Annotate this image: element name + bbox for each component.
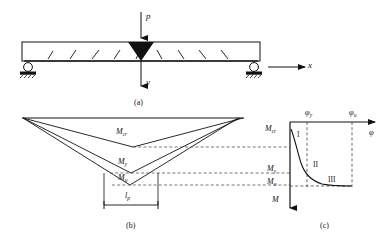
m-subscript: u	[274, 181, 277, 187]
axis-label-m: M	[272, 196, 279, 204]
m-symbol: M	[116, 127, 123, 136]
tick-label-phi-u: φu	[349, 108, 356, 117]
m-subscript: y	[125, 161, 127, 167]
moment-triangle-cracking	[23, 118, 243, 147]
tick-label-phi-y: φy	[305, 108, 312, 117]
technical-figure: p x y (a) Mcr My Mu lp (b) φy φu φ Mcr M…	[0, 0, 385, 243]
panel-b-moment-diagram	[22, 118, 290, 205]
label-m-cr-panel-c: Mcr	[265, 125, 276, 133]
m-symbol: M	[267, 164, 274, 173]
caption-panel-b: (b)	[126, 222, 135, 230]
axis-label-phi: φ	[369, 128, 374, 137]
m-symbol: M	[118, 173, 125, 182]
level-connector-lines	[110, 147, 290, 185]
label-plastic-length: lp	[125, 192, 130, 200]
panel-a-beam	[20, 12, 305, 86]
m-subscript: u	[125, 177, 128, 183]
m-symbol: M	[267, 177, 274, 186]
label-m-cr-panel-b: Mcr	[116, 128, 127, 136]
label-m-u-panel-c: Mu	[267, 178, 276, 186]
zone-label-2: II	[313, 161, 318, 169]
support-left-roller	[20, 63, 36, 78]
load-label-p: p	[146, 12, 151, 21]
figure-canvas	[0, 0, 385, 243]
panel-c-moment-curvature	[290, 122, 375, 208]
label-m-y-panel-c: My	[267, 165, 276, 173]
zone-label-1: I	[297, 131, 300, 139]
plastic-length-dimension	[104, 173, 158, 205]
m-subscript: y	[274, 168, 276, 174]
moment-curvature-curve	[291, 129, 352, 186]
axis-label-x: x	[308, 61, 312, 70]
label-m-y-panel-b: My	[118, 158, 127, 166]
phi-symbol: φ	[305, 107, 310, 117]
phi-symbol: φ	[349, 107, 354, 117]
m-symbol: M	[118, 157, 125, 166]
caption-panel-c: (c)	[320, 222, 329, 230]
m-subscript: cr	[123, 131, 128, 137]
label-m-u-panel-b: Mu	[118, 174, 127, 182]
l-subscript: p	[127, 195, 130, 201]
m-subscript: cr	[272, 128, 277, 134]
support-right-roller	[246, 63, 262, 78]
m-symbol: M	[265, 124, 272, 133]
phi-subscript: y	[310, 112, 312, 118]
axis-label-y: y	[146, 78, 150, 87]
zone-label-3: III	[328, 176, 336, 184]
caption-panel-a: (a)	[134, 99, 143, 107]
